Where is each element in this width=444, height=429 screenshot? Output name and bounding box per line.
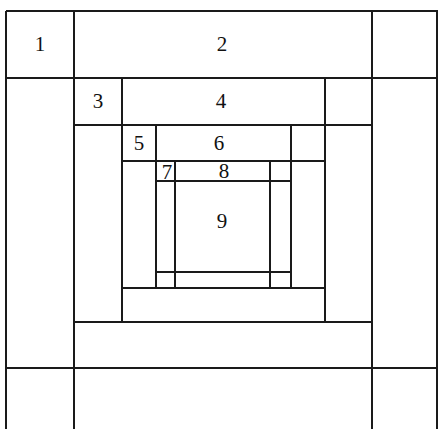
vline-outer-right xyxy=(436,11,438,429)
hline-ring2-lower xyxy=(74,321,372,323)
hline-ring3-top xyxy=(122,124,325,126)
region-label-4: 4 xyxy=(216,91,227,112)
region-label-3: 3 xyxy=(93,91,104,112)
region-label-6: 6 xyxy=(214,133,225,154)
region-label-5: 5 xyxy=(134,133,145,154)
spiral-subdivision-figure: 123456789 xyxy=(0,0,444,429)
region-label-8: 8 xyxy=(219,161,230,182)
vline-ring4-right xyxy=(269,161,271,288)
hline-ring2-top xyxy=(74,77,372,79)
vline-ring3-left xyxy=(155,125,157,288)
region-label-2: 2 xyxy=(217,34,228,55)
region-label-7: 7 xyxy=(162,162,173,183)
vline-outer-left xyxy=(5,11,7,429)
vline-ring2-right xyxy=(324,78,326,322)
vline-col-b xyxy=(371,11,373,429)
vline-ring2-left xyxy=(121,78,123,322)
vline-col-a xyxy=(73,11,75,429)
vline-ring3-right xyxy=(290,125,292,288)
hline-outer-top xyxy=(6,10,438,12)
vline-ring4-left xyxy=(174,161,176,288)
region-label-9: 9 xyxy=(217,211,228,232)
hline-ring3-lower xyxy=(122,287,325,289)
region-label-1: 1 xyxy=(35,34,46,55)
hline-ring1-lower xyxy=(6,367,438,369)
